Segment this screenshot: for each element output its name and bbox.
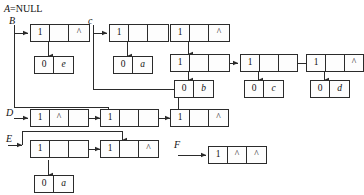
node-atom-b: 0 b	[174, 80, 214, 98]
cell-pointer-down	[326, 55, 345, 71]
cell-pointer-down	[260, 55, 279, 71]
cell-atom-value: c	[264, 81, 283, 97]
cell-pointer-down	[129, 25, 148, 41]
cell-tag: 0	[311, 81, 330, 97]
cell-pointer-down	[50, 141, 69, 157]
cell-atom-value: a	[133, 57, 152, 73]
cell-pointer-sub	[120, 141, 139, 157]
node-atom-d: 0 d	[310, 80, 350, 98]
cell-tag: 1	[171, 55, 190, 71]
cell-tag: 1	[241, 55, 260, 71]
cell-tag: 1	[171, 25, 190, 41]
cell-atom-value: a	[54, 176, 73, 192]
cell-pointer-sub	[190, 110, 209, 126]
cell-link-nil: ^	[345, 55, 363, 71]
cell-link-nil: ^	[209, 110, 228, 126]
cell-atom-value: b	[194, 81, 213, 97]
node-c-n3: 1	[170, 54, 230, 72]
cell-link-next	[69, 141, 88, 157]
node-b-head: 1 ^	[30, 24, 90, 42]
cell-tag: 0	[245, 81, 264, 97]
cell-link-next	[279, 55, 297, 71]
cell-pointer-down	[50, 25, 69, 41]
node-c-n2: 1 ^	[170, 24, 230, 42]
node-c-atom-a: 0 a	[113, 56, 153, 74]
cell-tag: 1	[209, 147, 228, 163]
cell-tag: 0	[175, 81, 194, 97]
label-a-null: A=NULL	[4, 4, 42, 14]
cell-link-nil: ^	[69, 25, 89, 41]
cell-pointer-sub	[120, 110, 139, 126]
cell-link-nil: ^	[139, 141, 158, 157]
cell-tag: 1	[171, 110, 190, 126]
cell-link-next	[209, 55, 229, 71]
node-d-n1: 1 ^	[30, 109, 89, 127]
cell-atom-value: e	[54, 57, 73, 73]
node-f-n1: 1 ^ ^	[208, 146, 267, 164]
cell-pointer-down	[190, 25, 209, 41]
node-e-n1: 1	[30, 140, 89, 158]
cell-pointer-nil: ^	[50, 110, 69, 126]
node-e-n2: 1 ^	[100, 140, 159, 158]
node-e-atom-a: 0 a	[34, 175, 74, 193]
cell-link-nil: ^	[247, 147, 266, 163]
node-c-head: 1	[109, 24, 169, 42]
cell-link-next	[148, 25, 168, 41]
label-d: D	[6, 108, 13, 118]
label-a-null-eq: =NULL	[10, 3, 42, 14]
cell-tag: 0	[35, 176, 54, 192]
cell-tag: 0	[114, 57, 133, 73]
cell-tag: 1	[101, 110, 120, 126]
label-e: E	[6, 134, 12, 144]
cell-pointer-nil: ^	[228, 147, 247, 163]
cell-tag: 1	[31, 141, 50, 157]
node-d-n2: 1	[100, 109, 159, 127]
cell-tag: 1	[31, 110, 50, 126]
node-c-n4: 1	[240, 54, 298, 72]
cell-pointer-down	[190, 55, 209, 71]
cell-tag: 1	[31, 25, 50, 41]
node-d-n3: 1 ^	[170, 109, 229, 127]
cell-tag: 0	[35, 57, 54, 73]
label-b: B	[9, 16, 15, 26]
node-atom-c: 0 c	[244, 80, 284, 98]
label-f: F	[174, 140, 180, 150]
cell-tag: 1	[110, 25, 129, 41]
cell-link-nil: ^	[209, 25, 229, 41]
cell-tag: 1	[101, 141, 120, 157]
node-b-atom-e: 0 e	[34, 56, 74, 74]
cell-tag: 1	[307, 55, 326, 71]
cell-link-next	[69, 110, 88, 126]
node-c-n5: 1 ^	[306, 54, 364, 72]
cell-atom-value: d	[330, 81, 349, 97]
cell-link-next	[139, 110, 158, 126]
